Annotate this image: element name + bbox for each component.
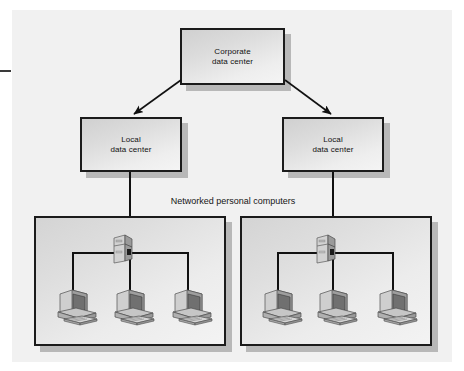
- workstation-icon[interactable]: [56, 288, 98, 328]
- networked-personal-computers-caption: Networked personal computers: [128, 196, 338, 206]
- local-data-center-box-left[interactable]: Local data center: [80, 117, 182, 172]
- corporate-data-center-label: Corporate data center: [212, 47, 253, 67]
- local-data-center-label-right: Local data center: [312, 135, 353, 155]
- workstation-icon[interactable]: [376, 288, 418, 328]
- server-tower-icon[interactable]: [315, 234, 337, 264]
- server-tower-icon[interactable]: [112, 234, 134, 264]
- workstation-icon[interactable]: [316, 288, 358, 328]
- workstation-icon[interactable]: [261, 288, 303, 328]
- workstation-icon[interactable]: [113, 288, 155, 328]
- diagram-canvas: Corporate data center Local data center …: [0, 0, 464, 371]
- local-data-center-box-right[interactable]: Local data center: [282, 117, 384, 172]
- left-margin-rule: [0, 70, 11, 72]
- corporate-data-center-box[interactable]: Corporate data center: [180, 28, 285, 85]
- workstation-icon[interactable]: [171, 288, 213, 328]
- local-data-center-label-left: Local data center: [110, 135, 151, 155]
